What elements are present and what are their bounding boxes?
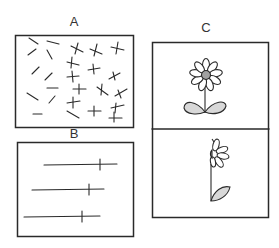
daisy-front-icon (184, 59, 226, 114)
diagram-canvas (0, 0, 279, 248)
flower-side-icon (210, 138, 230, 201)
panel-b-lines (24, 159, 117, 222)
panel-a-crosses (67, 42, 127, 122)
panel-a-dashes (27, 38, 79, 118)
